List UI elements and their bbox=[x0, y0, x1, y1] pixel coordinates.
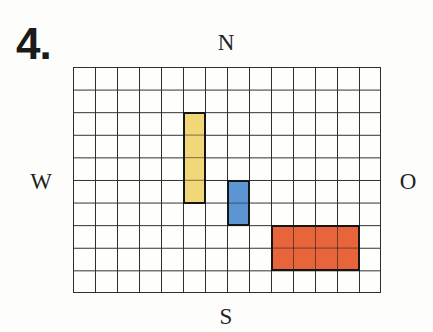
yellow-block-cells bbox=[185, 114, 205, 202]
yellow-block bbox=[183, 112, 207, 204]
red-block bbox=[271, 225, 361, 272]
grid-board bbox=[73, 67, 381, 293]
blue-block bbox=[227, 180, 251, 227]
compass-south-label: S bbox=[211, 305, 241, 328]
exercise-number: 4. bbox=[16, 22, 51, 66]
red-block-cells bbox=[273, 227, 359, 270]
compass-east-label: O bbox=[393, 170, 423, 193]
compass-west-label: W bbox=[26, 170, 56, 193]
blue-block-cells bbox=[229, 182, 249, 225]
compass-north-label: N bbox=[211, 31, 241, 54]
